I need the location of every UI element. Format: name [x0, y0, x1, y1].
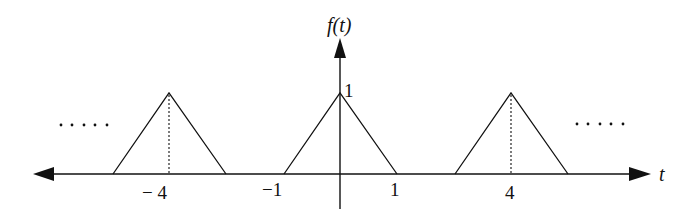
y-axis-up-arrow-icon [334, 38, 346, 58]
x-axis-right-arrow-icon [629, 167, 651, 181]
y-axis [334, 38, 346, 209]
continuation-dots-right [576, 123, 625, 126]
tick-label-neg1: −1 [262, 179, 282, 200]
x-axis-label: t [659, 163, 665, 185]
continuation-dots-left [60, 124, 109, 127]
pulse-left [113, 93, 226, 174]
triangular-pulse-diagram: f(t) t 1 − 4 −1 1 4 [0, 0, 687, 221]
x-axis [33, 167, 651, 181]
peak-label: 1 [344, 80, 354, 101]
tick-label-neg4: − 4 [142, 182, 167, 203]
x-axis-left-arrow-icon [33, 167, 54, 181]
y-axis-label: f(t) [327, 14, 352, 37]
pulse-right [455, 93, 568, 174]
tick-label-1: 1 [390, 179, 400, 200]
tick-label-4: 4 [505, 182, 515, 203]
